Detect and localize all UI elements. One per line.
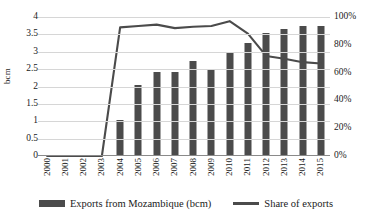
y-axis-left-tick-label: 2 [10, 82, 38, 92]
axis-baseline [38, 155, 330, 156]
x-axis-tick-label: 2008 [188, 158, 199, 176]
y-axis-left-tick-label: 0.5 [10, 134, 38, 144]
legend-item-share[interactable]: Share of exports [233, 198, 333, 209]
y-axis-right-tick-label: 80% [334, 40, 368, 50]
x-axis-tick-label: 2013 [279, 158, 290, 176]
legend-label-share: Share of exports [264, 198, 333, 209]
line-swatch-icon [233, 202, 259, 205]
legend-item-exports[interactable]: Exports from Mozambique (bcm) [39, 198, 211, 209]
y-axis-left-tick-label: 1.5 [10, 99, 38, 109]
y-axis-left-tick-label: 0 [10, 151, 38, 161]
x-axis-tick-label: 2003 [96, 158, 107, 176]
y-axis-right-tick-label: 100% [334, 12, 368, 22]
y-axis-left-tick-label: 3 [10, 47, 38, 57]
gridline [38, 121, 330, 122]
x-axis-tick-label: 2009 [206, 158, 217, 176]
y-axis-right-tick-label: 40% [334, 96, 368, 106]
gridline [38, 104, 330, 105]
y-axis-right-tick-label: 0% [334, 151, 368, 161]
gridline [38, 139, 330, 140]
gridline [38, 87, 330, 88]
bar-swatch-icon [39, 200, 65, 207]
gridline [38, 17, 330, 18]
y-axis-left-tick-label: 2.5 [10, 64, 38, 74]
gridline [38, 34, 330, 35]
plot-area [38, 17, 330, 156]
chart-legend: Exports from Mozambique (bcm) Share of e… [0, 198, 372, 209]
x-axis-tick-label: 2001 [60, 158, 71, 176]
chart-container: bcm 00.511.522.533.54 0%20%40%60%80%100%… [0, 0, 372, 222]
y-axis-left-tick-label: 3.5 [10, 30, 38, 40]
gridline [38, 69, 330, 70]
y-axis-left-tick-label: 1 [10, 117, 38, 127]
share-of-exports-line [47, 21, 321, 156]
x-axis-tick-label: 2006 [151, 158, 162, 176]
y-axis-right-tick-label: 20% [334, 123, 368, 133]
x-axis-tick-label: 2015 [315, 158, 326, 176]
x-axis-tick-label: 2014 [297, 158, 308, 176]
x-axis-tick-label: 2010 [224, 158, 235, 176]
x-axis-ticks: 2000200120022003200420052006200720082009… [38, 158, 330, 194]
x-axis-tick-label: 2002 [78, 158, 89, 176]
x-axis-tick-label: 2011 [242, 158, 253, 176]
x-axis-tick-label: 2007 [169, 158, 180, 176]
x-axis-tick-label: 2005 [133, 158, 144, 176]
y-axis-right-tick-label: 60% [334, 68, 368, 78]
x-axis-tick-label: 2004 [115, 158, 126, 176]
gridline [38, 52, 330, 53]
x-axis-tick-label: 2012 [261, 158, 272, 176]
y-axis-left-tick-label: 4 [10, 12, 38, 22]
x-axis-tick-label: 2000 [42, 158, 53, 176]
legend-label-exports: Exports from Mozambique (bcm) [70, 198, 211, 209]
